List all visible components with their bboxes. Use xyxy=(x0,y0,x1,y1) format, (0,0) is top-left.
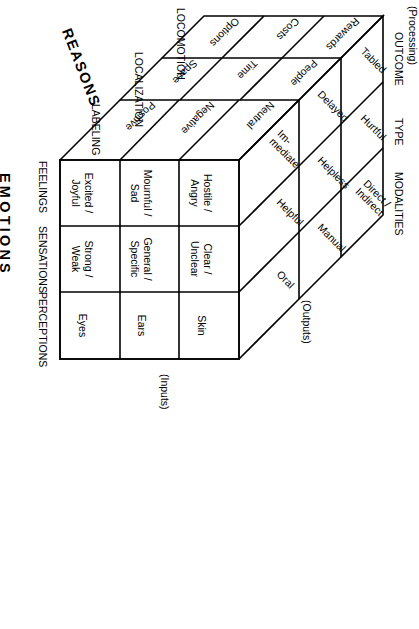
layer-title-outcome: OUTCOME xyxy=(393,32,405,86)
grid-cell-sensations-neutral: Clear / Unclear xyxy=(179,226,224,292)
caption-outputs: (Outputs) xyxy=(301,300,313,344)
grid-cell-perceptions-negative: Ears xyxy=(119,292,164,359)
grid-cell-sensations-positive: Strong / Weak xyxy=(60,226,105,292)
depth-group-localization: LOCALIZATION xyxy=(133,52,145,127)
row-header-perceptions: PERCEPTIONS xyxy=(37,292,49,367)
row-header-sensations: SENSATIONS xyxy=(37,226,49,293)
layer-title-modalities: MODALITIES xyxy=(393,172,405,236)
layer-title-type: TYPE xyxy=(393,118,405,145)
axis-title-emotions: EMOTIONS xyxy=(0,173,13,276)
row-header-feelings: FEELINGS xyxy=(37,161,49,213)
caption-processing: (Processing) xyxy=(407,6,419,65)
grid-cell-sensations-negative: General / Specific xyxy=(119,226,164,292)
grid-cell-feelings-positive: Excited / Joyful xyxy=(60,160,105,226)
depth-group-locomotion: LOCOMOTION xyxy=(175,8,187,80)
caption-inputs: (Inputs) xyxy=(159,374,171,410)
grid-cell-feelings-negative: Mournful / Sad xyxy=(119,160,164,226)
grid-cell-perceptions-neutral: Skin xyxy=(179,292,224,359)
depth-group-labeling: LABELING xyxy=(90,104,102,155)
grid-cell-feelings-neutral: Hostile / Angry xyxy=(179,160,224,226)
grid-cell-perceptions-positive: Eyes xyxy=(60,292,105,359)
